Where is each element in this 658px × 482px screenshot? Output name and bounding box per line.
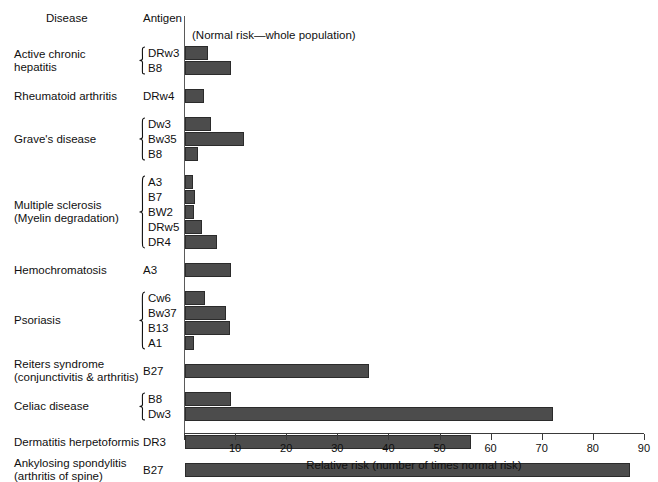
antigen-label: BW2 <box>148 206 173 219</box>
x-axis-label: Relative risk (number of times normal ri… <box>184 459 644 471</box>
antigen-group-brace <box>137 290 146 351</box>
bar <box>185 61 231 75</box>
disease-label: Ankylosing spondylitis (arthritis of spi… <box>14 457 127 482</box>
antigen-label: DR3 <box>143 436 166 449</box>
x-tick-30 <box>337 434 338 440</box>
antigen-label: Dw3 <box>148 408 171 421</box>
antigen-label: Bw35 <box>148 133 177 146</box>
bar <box>185 205 194 219</box>
antigen-label: B8 <box>148 393 162 406</box>
x-tick-50 <box>440 434 441 440</box>
antigen-group-brace <box>137 45 146 76</box>
antigen-label: B13 <box>148 322 168 335</box>
disease-label: Reiters syndrome (conjunctivitis & arthr… <box>14 358 139 384</box>
x-tick-label-60: 60 <box>484 442 496 454</box>
x-tick-10 <box>235 434 236 440</box>
x-tick-70 <box>542 434 543 440</box>
bar <box>185 321 230 335</box>
bar <box>185 235 217 249</box>
bar <box>185 147 198 161</box>
column-header-disease: Disease <box>46 12 88 24</box>
antigen-group-brace <box>137 116 146 162</box>
disease-label: Grave's disease <box>14 133 96 146</box>
disease-label: Psoriasis <box>14 314 61 327</box>
antigen-label: DRw3 <box>148 47 179 60</box>
antigen-label: B7 <box>148 191 162 204</box>
x-tick-label-90: 90 <box>638 442 650 454</box>
antigen-label: Dw3 <box>148 118 171 131</box>
disease-label: Active chronic hepatitis <box>14 48 86 74</box>
antigen-label: A3 <box>148 176 162 189</box>
bar <box>185 336 194 350</box>
bar <box>185 190 195 204</box>
x-tick-90 <box>644 434 645 440</box>
disease-label: Hemochromatosis <box>14 264 107 277</box>
bar <box>185 291 205 305</box>
disease-label: Rheumatoid arthritis <box>14 90 117 103</box>
x-tick-label-30: 30 <box>331 442 343 454</box>
bar <box>185 46 208 60</box>
normal-risk-annotation: (Normal risk—whole population) <box>192 29 356 41</box>
antigen-label: B27 <box>143 464 163 477</box>
antigen-label: A3 <box>143 264 157 277</box>
x-tick-80 <box>593 434 594 440</box>
bar <box>185 175 193 189</box>
antigen-group-brace <box>137 174 146 250</box>
antigen-label: A1 <box>148 337 162 350</box>
column-header-antigen: Antigen <box>143 12 182 24</box>
bar <box>185 132 244 146</box>
bar <box>185 89 204 103</box>
antigen-label: Cw6 <box>148 292 171 305</box>
bar <box>185 364 369 378</box>
disease-label: Celiac disease <box>14 400 89 413</box>
antigen-label: Bw37 <box>148 307 177 320</box>
bar <box>185 263 231 277</box>
antigen-label: DRw5 <box>148 221 179 234</box>
disease-label: Dermatitis herpetoformis <box>14 436 139 449</box>
bar <box>185 220 202 234</box>
x-tick-label-80: 80 <box>587 442 599 454</box>
antigen-label: B8 <box>148 148 162 161</box>
x-tick-60 <box>491 434 492 440</box>
antigen-label: DR4 <box>148 236 171 249</box>
antigen-group-brace <box>137 391 146 422</box>
x-tick-label-50: 50 <box>433 442 445 454</box>
x-tick-label-70: 70 <box>536 442 548 454</box>
relative-risk-chart: Disease Antigen (Normal risk—whole popul… <box>0 0 658 482</box>
bar <box>185 392 231 406</box>
antigen-label: B27 <box>143 365 163 378</box>
disease-label: Multiple sclerosis (Myelin degradation) <box>14 199 119 225</box>
x-tick-40 <box>388 434 389 440</box>
antigen-label: DRw4 <box>143 90 174 103</box>
bar <box>185 407 553 421</box>
x-tick-label-10: 10 <box>229 442 241 454</box>
bar <box>185 435 471 449</box>
x-tick-20 <box>286 434 287 440</box>
x-tick-label-20: 20 <box>280 442 292 454</box>
x-axis-line <box>184 433 644 434</box>
bar <box>185 306 226 320</box>
x-tick-label-40: 40 <box>382 442 394 454</box>
antigen-label: B8 <box>148 62 162 75</box>
bar <box>185 117 211 131</box>
x-tick-0 <box>184 434 185 440</box>
